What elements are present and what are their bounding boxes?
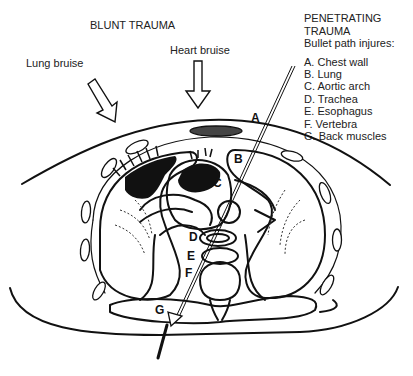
heart-bruise-arrow <box>186 61 210 108</box>
lung-bruise-arrow <box>88 79 117 122</box>
blunt-arrows <box>88 61 210 122</box>
marker-e: E <box>187 249 195 263</box>
bullet-tail <box>158 325 167 358</box>
marker-d: D <box>189 230 198 244</box>
vertebra <box>200 262 240 300</box>
marker-a: A <box>251 111 260 125</box>
marker-c: C <box>213 176 222 190</box>
marker-b: B <box>234 152 243 166</box>
marker-g: G <box>155 303 164 317</box>
right-lung <box>227 150 325 298</box>
marker-f: F <box>185 266 192 280</box>
chest-cross-section <box>0 0 413 376</box>
